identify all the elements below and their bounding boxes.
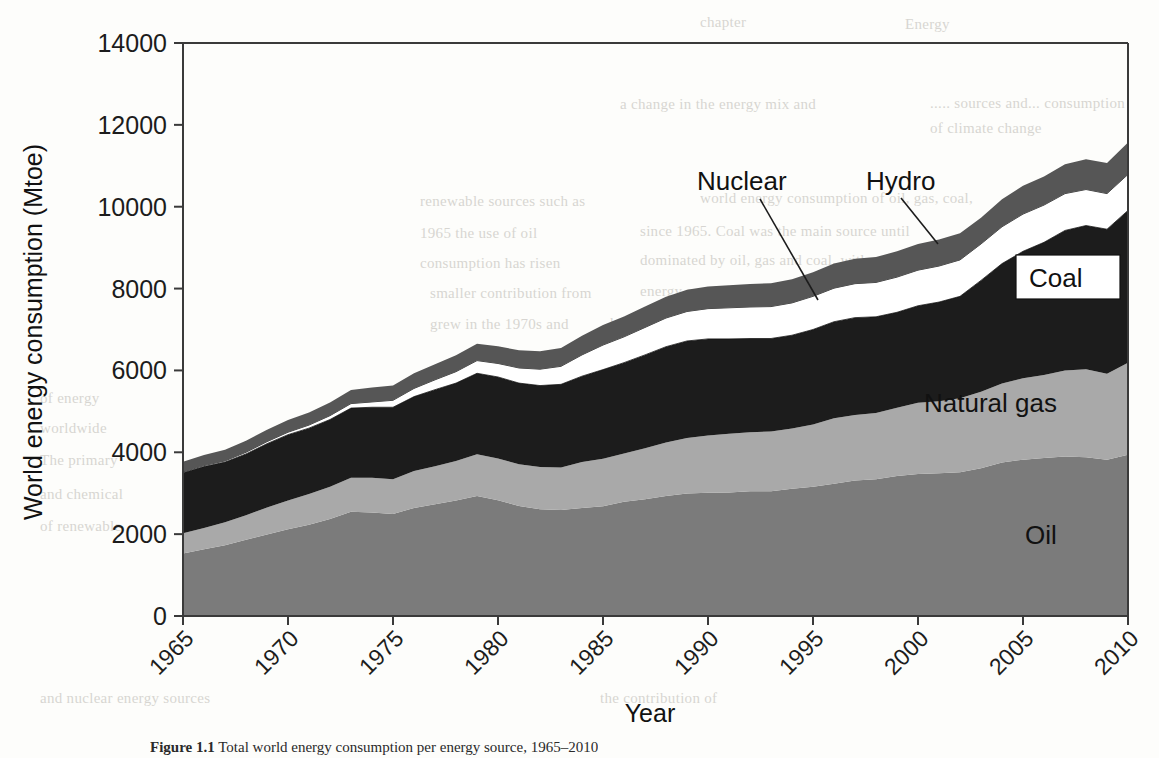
y-tick-label-6000: 6000: [111, 356, 167, 384]
x-tick-label-1985: 1985: [564, 625, 619, 680]
x-tick-label-2000: 2000: [879, 625, 934, 680]
x-axis-title: Year: [625, 699, 676, 727]
x-tick-label-1975: 1975: [354, 625, 409, 680]
oil-label: Oil: [1025, 520, 1057, 550]
nuclear-label: Nuclear: [697, 166, 787, 196]
y-tick-label-8000: 8000: [111, 275, 167, 303]
y-tick-label-12000: 12000: [97, 111, 167, 139]
figure-caption: Figure 1.1 Total world energy consumptio…: [150, 739, 598, 758]
annotation-coal: Coal: [1016, 255, 1120, 299]
chart-plot-areas: [183, 142, 1128, 616]
x-tick-label-2005: 2005: [984, 625, 1039, 680]
hydro-leader-line: [901, 198, 938, 244]
y-axis-title: World energy consumption (Mtoe): [19, 144, 47, 520]
figure-caption-text: Total world energy consumption per energ…: [218, 739, 598, 755]
x-tick-label-1995: 1995: [774, 625, 829, 680]
figure-caption-number: Figure 1.1: [150, 739, 215, 755]
x-tick-label-1970: 1970: [249, 625, 304, 680]
x-tick-label-1990: 1990: [669, 625, 724, 680]
y-tick-label-10000: 10000: [97, 193, 167, 221]
natural-gas-label: Natural gas: [924, 388, 1057, 418]
y-tick-label-14000: 14000: [97, 29, 167, 57]
y-tick-label-4000: 4000: [111, 438, 167, 466]
y-tick-label-2000: 2000: [111, 520, 167, 548]
hydro-label: Hydro: [866, 166, 935, 196]
x-tick-label-1965: 1965: [144, 625, 199, 680]
energy-consumption-area-chart: 0200040006000800010000120001400019651970…: [0, 0, 1159, 758]
annotation-hydro: Hydro: [866, 166, 938, 244]
y-tick-label-0: 0: [153, 602, 167, 630]
x-tick-label-2010: 2010: [1089, 625, 1144, 680]
coal-label: Coal: [1029, 263, 1082, 293]
x-tick-label-1980: 1980: [459, 625, 514, 680]
